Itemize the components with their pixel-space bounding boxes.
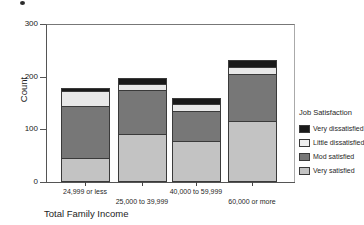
scan-artifact-speck bbox=[20, 1, 25, 5]
legend-item-label: Mod satisfied bbox=[313, 153, 354, 161]
legend: Job Satisfaction Very dissatisfied Littl… bbox=[299, 108, 363, 178]
bar-segment-little-dissatisfied bbox=[61, 91, 110, 106]
bar-25000-to-39999 bbox=[118, 78, 167, 182]
bar-segment-very-satisfied bbox=[61, 158, 110, 182]
bar-segment-mod-satisfied bbox=[228, 74, 277, 121]
bar-60000-or-more bbox=[228, 60, 277, 182]
plot-area bbox=[46, 24, 295, 182]
legend-item-label: Very satisfied bbox=[313, 167, 355, 175]
legend-item-label: Very dissatisfied bbox=[313, 125, 364, 133]
legend-item-little-dissatisfied: Little dissatisfied bbox=[299, 136, 363, 150]
bar-segment-very-satisfied bbox=[118, 134, 167, 182]
bar-40000-to-59999 bbox=[172, 98, 221, 182]
legend-item-very-satisfied: Very satisfied bbox=[299, 164, 363, 178]
bar-segment-very-satisfied bbox=[228, 121, 277, 182]
bar-segment-little-dissatisfied bbox=[118, 84, 167, 91]
bar-segment-little-dissatisfied bbox=[172, 104, 221, 112]
x-axis-tick-4 bbox=[252, 182, 253, 186]
x-axis-label-1: 24,999 or less bbox=[53, 188, 117, 196]
legend-swatch-icon bbox=[299, 139, 310, 147]
bar-segment-mod-satisfied bbox=[61, 106, 110, 159]
bar-24999-or-less bbox=[61, 88, 110, 182]
y-axis-label-300: 300 bbox=[25, 20, 38, 28]
legend-title: Job Satisfaction bbox=[299, 108, 363, 117]
legend-swatch-icon bbox=[299, 167, 310, 175]
bar-segment-very-satisfied bbox=[172, 141, 221, 182]
bar-segment-mod-satisfied bbox=[118, 90, 167, 134]
x-axis-line bbox=[46, 182, 295, 183]
bar-segment-mod-satisfied bbox=[172, 111, 221, 141]
legend-swatch-icon bbox=[299, 153, 310, 161]
x-axis-label-4: 60,000 or more bbox=[220, 198, 284, 206]
legend-swatch-icon bbox=[299, 125, 310, 133]
x-axis-label-3: 40,000 to 59,999 bbox=[162, 188, 230, 196]
y-axis-label-0: 0 bbox=[34, 178, 38, 186]
y-axis-label-100: 100 bbox=[25, 125, 38, 133]
x-axis-tick-3 bbox=[196, 182, 197, 186]
bar-segment-very-dissatisfied bbox=[228, 60, 277, 67]
legend-item-very-dissatisfied: Very dissatisfied bbox=[299, 122, 363, 136]
x-axis-label-2: 25,000 to 39,999 bbox=[108, 198, 176, 206]
x-axis-tick-2 bbox=[142, 182, 143, 186]
legend-item-label: Little dissatisfied bbox=[313, 139, 364, 147]
x-axis-tick-1 bbox=[85, 182, 86, 186]
y-axis-title: Count bbox=[18, 60, 29, 120]
bar-segment-little-dissatisfied bbox=[228, 67, 277, 74]
legend-item-mod-satisfied: Mod satisfied bbox=[299, 150, 363, 164]
x-axis-title: Total Family Income bbox=[44, 208, 128, 219]
